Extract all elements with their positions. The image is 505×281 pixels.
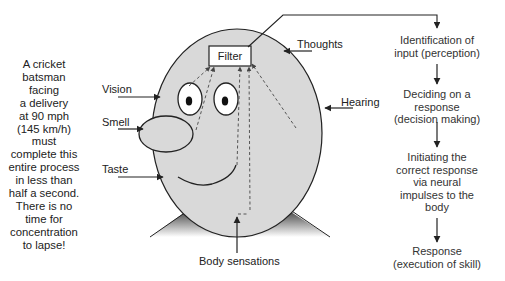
flow-step-line: impulses to the: [377, 189, 497, 202]
side-note-line: must: [6, 135, 82, 148]
body-sensations-label: Body sensations: [199, 255, 280, 268]
hearing-label: Hearing: [341, 96, 380, 109]
side-note-line: complete this: [6, 148, 82, 161]
side-note-line: time for: [6, 213, 82, 226]
flow-step-initiation: Initiating the correct response via neur…: [377, 151, 497, 214]
side-note: A cricket batsman facing a delivery at 9…: [6, 58, 82, 252]
flow-step-line: via neural: [377, 176, 497, 189]
side-note-line: A cricket: [6, 58, 82, 71]
taste-label: Taste: [102, 163, 128, 176]
smell-label: Smell: [102, 116, 130, 129]
flow-step-line: input (perception): [377, 47, 497, 60]
flow-step-decision: Deciding on a response (decision making): [377, 88, 497, 126]
flow-step-line: Identification of: [377, 34, 497, 47]
side-note-line: There is no: [6, 200, 82, 213]
flow-step-response: Response (execution of skill): [377, 245, 497, 270]
flow-step-line: (decision making): [377, 113, 497, 126]
flow-step-perception: Identification of input (perception): [377, 34, 497, 59]
thoughts-label: Thoughts: [297, 38, 343, 51]
flow-step-line: (execution of skill): [377, 258, 497, 271]
side-note-line: facing: [6, 84, 82, 97]
flow-step-line: body: [377, 201, 497, 214]
side-note-line: entire process: [6, 161, 82, 174]
side-note-line: (145 km/h): [6, 123, 82, 136]
side-note-line: in less than: [6, 174, 82, 187]
flow-step-line: Response: [377, 245, 497, 258]
flow-step-line: Initiating the: [377, 151, 497, 164]
side-note-line: half a second.: [6, 187, 82, 200]
flow-step-line: correct response: [377, 164, 497, 177]
vision-label: Vision: [102, 83, 132, 96]
side-note-line: a delivery: [6, 97, 82, 110]
side-note-line: to lapse!: [6, 239, 82, 252]
filter-label: Filter: [209, 50, 251, 63]
flow-step-line: Deciding on a: [377, 88, 497, 101]
side-note-line: batsman: [6, 71, 82, 84]
side-note-line: concentration: [6, 226, 82, 239]
flow-step-line: response: [377, 101, 497, 114]
nose: [139, 116, 193, 152]
side-note-line: at 90 mph: [6, 110, 82, 123]
